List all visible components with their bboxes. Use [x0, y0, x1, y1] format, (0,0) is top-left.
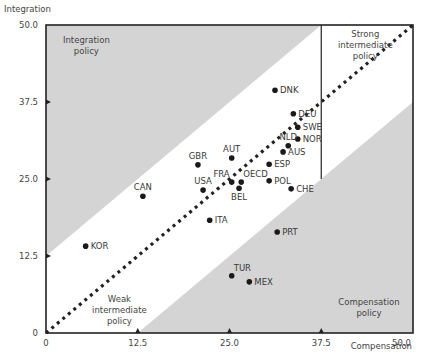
svg-text:MEX: MEX: [254, 277, 273, 287]
svg-text:USA: USA: [194, 176, 212, 186]
y-axis-label: Integration: [4, 4, 51, 14]
y-tick-label: 50.0: [19, 20, 38, 30]
data-point-ita: ITA: [207, 215, 228, 225]
data-point-bel: BEL: [231, 185, 247, 202]
x-tick-label: 37.5: [312, 338, 331, 348]
y-tick-label: 25.0: [19, 174, 38, 184]
data-point-can: CAN: [134, 182, 152, 199]
svg-text:OECD: OECD: [243, 169, 268, 179]
data-point-aus: AUS: [280, 147, 305, 157]
svg-text:BEL: BEL: [231, 192, 247, 202]
y-tick-marker-icon: [46, 254, 51, 259]
svg-text:CHE: CHE: [296, 184, 314, 194]
data-point-deu: DEU: [291, 109, 317, 119]
svg-text:DEU: DEU: [298, 109, 316, 119]
scatter-chart: 012.525.037.550.0012.525.037.550.0 Integ…: [0, 0, 435, 363]
svg-text:KOR: KOR: [91, 241, 109, 251]
x-tick-label: 25.0: [220, 338, 239, 348]
svg-text:GBR: GBR: [189, 151, 207, 161]
y-tick-label: 37.5: [19, 97, 38, 107]
svg-text:NLD: NLD: [279, 132, 297, 142]
data-point-kor: KOR: [83, 241, 109, 251]
y-tick-label: 0: [33, 328, 38, 338]
data-point-dnk: DNK: [272, 85, 299, 95]
data-point-pol: POL: [266, 176, 291, 186]
data-point-aut: AUT: [223, 144, 241, 161]
data-point-oecd: OECD: [238, 169, 268, 185]
svg-text:ITA: ITA: [215, 215, 228, 225]
data-point-che: CHE: [288, 184, 314, 194]
data-point-gbr: GBR: [189, 151, 207, 168]
svg-text:CAN: CAN: [134, 182, 152, 192]
data-point-usa: USA: [194, 176, 212, 193]
svg-text:PRT: PRT: [282, 227, 298, 237]
x-tick-marker-icon: [135, 328, 140, 333]
svg-text:DNK: DNK: [280, 85, 299, 95]
region-label: Strongintermediatepolicy: [338, 29, 393, 61]
data-point-esp: ESP: [266, 159, 290, 169]
svg-text:POL: POL: [274, 176, 291, 186]
svg-text:SWE: SWE: [303, 122, 322, 132]
svg-text:AUT: AUT: [223, 144, 241, 154]
data-point-nor: NOR: [295, 134, 322, 144]
svg-text:TUR: TUR: [233, 263, 251, 273]
region-label: Weakintermediatepolicy: [92, 294, 147, 326]
data-point-swe: SWE: [295, 122, 322, 132]
svg-text:AUS: AUS: [288, 147, 305, 157]
x-tick-label: 12.5: [128, 338, 147, 348]
svg-text:ESP: ESP: [274, 159, 290, 169]
svg-text:FRA: FRA: [213, 169, 229, 179]
svg-text:NOR: NOR: [303, 134, 322, 144]
x-tick-label: 0: [43, 338, 48, 348]
y-tick-label: 12.5: [19, 251, 38, 261]
x-axis-label: Compensation: [351, 341, 412, 351]
